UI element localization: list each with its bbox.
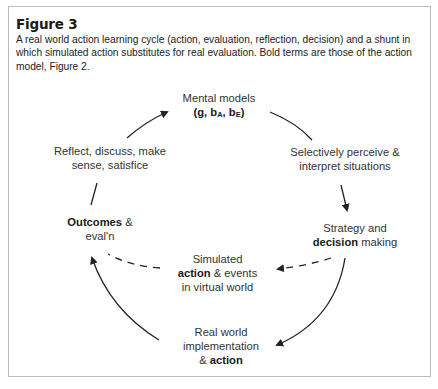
mental-models-formula: (g, bA, bE)	[159, 105, 279, 122]
node-reflect: Reflect, discuss, make sense, satisfice	[40, 144, 180, 172]
arrow-simulated-to-outcomes	[108, 254, 160, 268]
node-outcomes: Outcomes & eval'n	[50, 215, 150, 243]
outcomes-term: Outcomes	[67, 216, 122, 228]
arrow-strategy-to-real-world	[277, 258, 345, 345]
node-perceive: Selectively perceive & interpret situati…	[270, 145, 420, 173]
decision-term: decision	[313, 236, 358, 248]
arrow-outcomes-to-reflect	[91, 183, 97, 205]
node-mental-models: Mental models (g, bA, bE)	[159, 91, 279, 122]
node-simulated: Simulated action & events in virtual wor…	[160, 252, 275, 294]
arrow-real-world-to-outcomes	[92, 258, 159, 340]
arrow-perceive-to-strategy	[341, 185, 347, 210]
node-real-world: Real world implementation & action	[166, 325, 276, 367]
mental-models-label: Mental models	[159, 91, 279, 105]
node-strategy: Strategy and decision making	[295, 221, 415, 249]
action-term: action	[178, 267, 211, 279]
action-term: action	[210, 354, 243, 366]
arrow-strategy-to-simulated	[278, 258, 331, 269]
